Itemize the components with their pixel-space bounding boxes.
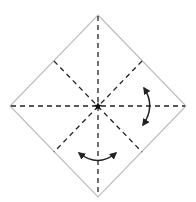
origami-diagram [0,0,196,202]
